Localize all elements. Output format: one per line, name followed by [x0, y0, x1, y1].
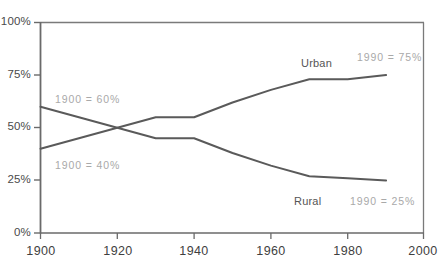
annotation-rural-end: 1990 = 25% — [350, 196, 415, 207]
x-tick-label-1980: 1980 — [317, 245, 379, 258]
y-tick-label-50: 50% — [0, 121, 31, 133]
chart-container: 100% 75% 50% 25% 0% 1900 1920 1940 1960 … — [0, 0, 444, 272]
y-axis-ticks — [34, 23, 40, 234]
chart-plot-area — [0, 0, 444, 272]
y-tick-label-100: 100% — [0, 16, 31, 28]
x-axis-ticks — [41, 233, 424, 239]
x-tick-label-1960: 1960 — [240, 245, 302, 258]
annotation-urban-end: 1990 = 75% — [357, 52, 422, 63]
x-tick-label-1900: 1900 — [10, 245, 72, 258]
annotation-rural-start: 1900 = 60% — [55, 94, 120, 105]
x-tick-label-1940: 1940 — [163, 245, 225, 258]
annotation-urban-start: 1900 = 40% — [55, 160, 120, 171]
series-label-urban: Urban — [301, 58, 332, 69]
y-tick-label-75: 75% — [0, 69, 31, 81]
series-label-rural: Rural — [294, 196, 321, 207]
series-line-urban — [41, 75, 387, 149]
x-tick-label-1920: 1920 — [87, 245, 149, 258]
y-tick-label-25: 25% — [0, 174, 31, 186]
x-tick-label-2000: 2000 — [392, 245, 444, 258]
y-tick-label-0: 0% — [0, 227, 31, 239]
